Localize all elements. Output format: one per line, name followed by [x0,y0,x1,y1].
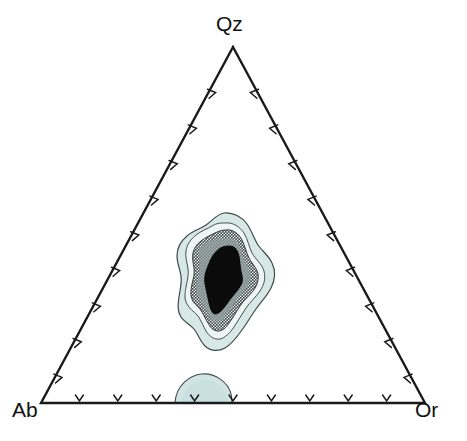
ticks-right-axis [250,89,412,383]
vertex-label-ab: Ab [12,398,38,422]
vertex-label-or: Or [415,398,438,422]
ternary-plot-canvas [0,0,467,441]
contour-feature-main-blob [177,213,275,351]
contour-feature-basal-dome [175,374,232,403]
ternary-diagram: Qz Ab Or [0,0,467,441]
ticks-bottom-axis [75,395,390,401]
vertex-label-qz: Qz [216,12,243,36]
